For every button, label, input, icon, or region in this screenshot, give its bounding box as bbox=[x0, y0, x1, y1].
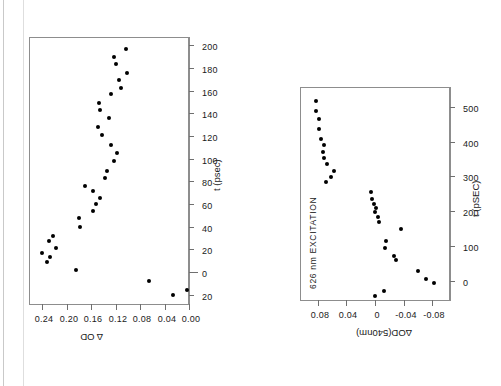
x-tick-label: 20 bbox=[202, 247, 212, 257]
scan-edge-line-left bbox=[3, 0, 4, 386]
x-tick-label: 200 bbox=[202, 42, 218, 52]
y-tick-label: 0.04 bbox=[339, 310, 357, 320]
x-tick bbox=[189, 250, 194, 251]
data-point bbox=[325, 162, 329, 166]
data-point bbox=[329, 175, 333, 179]
data-point bbox=[322, 156, 326, 160]
x-tick bbox=[189, 272, 198, 273]
x-tick bbox=[189, 91, 194, 92]
data-point bbox=[91, 209, 95, 213]
data-point bbox=[369, 190, 373, 194]
bottom-x-axis-title: t (pSEC) bbox=[470, 181, 481, 217]
data-point bbox=[114, 62, 118, 66]
excitation-annotation: 626 nm EXCITATION bbox=[308, 197, 318, 289]
x-tick bbox=[450, 281, 455, 282]
x-tick bbox=[189, 204, 194, 205]
data-point bbox=[74, 268, 78, 272]
top-y-axis-line bbox=[29, 304, 190, 305]
x-tick bbox=[450, 142, 455, 143]
data-point bbox=[112, 159, 116, 163]
data-point bbox=[100, 133, 104, 137]
data-point bbox=[314, 99, 318, 103]
x-tick-label: 40 bbox=[202, 224, 212, 234]
x-tick bbox=[189, 68, 194, 69]
y-tick bbox=[375, 300, 376, 306]
data-point bbox=[77, 216, 81, 220]
data-point bbox=[96, 125, 100, 129]
data-point bbox=[115, 151, 119, 155]
x-tick bbox=[189, 295, 194, 296]
y-tick bbox=[318, 300, 319, 306]
x-tick bbox=[189, 159, 194, 160]
top-y-axis-title: Δ OD bbox=[80, 332, 103, 343]
data-point bbox=[376, 215, 380, 219]
data-point bbox=[107, 116, 111, 120]
x-tick-label: 400 bbox=[463, 139, 479, 149]
x-tick-label: 20 bbox=[202, 292, 212, 302]
x-tick bbox=[189, 45, 194, 46]
data-point bbox=[432, 281, 436, 285]
y-tick bbox=[140, 304, 141, 310]
y-tick bbox=[189, 304, 190, 310]
y-tick bbox=[165, 304, 166, 310]
data-point bbox=[83, 184, 87, 188]
y-tick bbox=[116, 304, 117, 310]
x-tick bbox=[189, 136, 194, 137]
data-point bbox=[105, 169, 109, 173]
data-point bbox=[171, 293, 175, 297]
data-point bbox=[392, 254, 396, 258]
data-point bbox=[45, 260, 49, 264]
data-point bbox=[317, 127, 321, 131]
x-tick bbox=[450, 246, 455, 247]
y-tick bbox=[404, 300, 405, 306]
x-tick-label: 180 bbox=[202, 65, 218, 75]
bottom-panel: 0100200300400500-0.08-0.0400.040.08 t (p… bbox=[294, 55, 484, 345]
bottom-x-axis-line bbox=[450, 87, 451, 301]
figure-page: 200204060801001201401601802000.000.040.0… bbox=[0, 0, 501, 386]
x-tick bbox=[189, 181, 194, 182]
y-tick-label: 0 bbox=[374, 310, 379, 320]
top-x-axis-title: t (psec) bbox=[211, 159, 222, 191]
x-tick-label: 100 bbox=[463, 243, 479, 253]
top-plot-frame bbox=[29, 37, 189, 305]
data-point bbox=[97, 101, 101, 105]
x-tick bbox=[189, 113, 194, 114]
y-tick bbox=[42, 304, 43, 310]
y-tick-label: 0.08 bbox=[133, 314, 151, 324]
y-tick-label: 0.20 bbox=[60, 314, 78, 324]
data-point bbox=[78, 225, 82, 229]
x-tick-label: 500 bbox=[463, 104, 479, 114]
data-point bbox=[382, 289, 386, 293]
y-tick-label: 0.12 bbox=[109, 314, 127, 324]
top-x-axis-line bbox=[189, 37, 190, 305]
y-tick-label: -0.04 bbox=[395, 310, 417, 320]
y-tick-label: 0.00 bbox=[182, 314, 200, 324]
data-point bbox=[332, 169, 336, 173]
y-tick-label: -0.08 bbox=[423, 310, 445, 320]
x-tick-label: 0 bbox=[463, 278, 468, 288]
x-tick-label: 160 bbox=[202, 88, 218, 98]
data-point bbox=[319, 137, 323, 141]
y-tick-label: 0.24 bbox=[35, 314, 53, 324]
bottom-plot-frame bbox=[300, 87, 450, 301]
x-tick bbox=[450, 107, 455, 108]
data-point bbox=[372, 202, 376, 206]
x-tick bbox=[450, 176, 455, 177]
y-tick bbox=[346, 300, 347, 306]
scan-edge-line-left-2 bbox=[23, 0, 24, 386]
top-panel: 200204060801001201401601802000.000.040.0… bbox=[25, 21, 225, 341]
x-tick-label: 0 bbox=[202, 269, 207, 279]
y-tick-label: 0.16 bbox=[84, 314, 102, 324]
y-tick bbox=[91, 304, 92, 310]
data-point bbox=[399, 227, 403, 231]
y-tick-label: 0.04 bbox=[157, 314, 175, 324]
bottom-y-axis-title: ΔOD(540nm) bbox=[356, 328, 412, 339]
data-point bbox=[109, 143, 113, 147]
x-tick bbox=[189, 227, 194, 228]
y-tick bbox=[432, 300, 433, 306]
data-point bbox=[373, 294, 377, 298]
x-tick-label: 60 bbox=[202, 201, 212, 211]
x-tick bbox=[450, 211, 455, 212]
x-tick-label: 140 bbox=[202, 110, 218, 120]
x-tick-label: 120 bbox=[202, 133, 218, 143]
